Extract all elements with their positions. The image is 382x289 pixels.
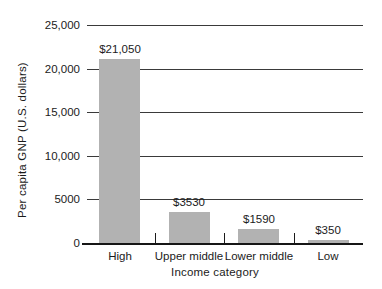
bar-chart-figure: Per capita GNP (U.S. dollars) 0500010,00… (0, 0, 382, 289)
bar-value-label: $3530 (173, 196, 205, 208)
bar-lower-middle (238, 229, 279, 243)
y-tick-label: 15,000 (30, 106, 80, 118)
x-axis-title: Income category (171, 266, 259, 278)
bar-upper-middle (169, 212, 210, 243)
y-tick-label: 5000 (30, 193, 80, 205)
category-label: Low (317, 250, 338, 262)
bar-high (99, 59, 140, 243)
y-tick-label: 10,000 (30, 150, 80, 162)
y-axis-title: Per capita GNP (U.S. dollars) (16, 62, 28, 218)
x-axis-tick (294, 233, 295, 243)
bar-value-label: $21,050 (99, 43, 141, 55)
y-tick-label: 25,000 (30, 19, 80, 31)
gridline (87, 25, 363, 26)
y-tick-label: 20,000 (30, 63, 80, 75)
bar-value-label: $350 (315, 224, 341, 236)
y-tick-label: 0 (30, 237, 80, 249)
x-axis-tick (155, 233, 156, 243)
bar-value-label: $1590 (243, 213, 275, 225)
x-axis-tick (224, 233, 225, 243)
category-label: Lower middle (225, 250, 293, 262)
category-label: Upper middle (155, 250, 223, 262)
x-axis-line (82, 243, 363, 245)
category-label: High (108, 250, 132, 262)
